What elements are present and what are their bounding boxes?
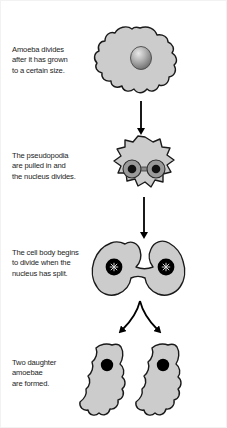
nucleus-star-pattern-left bbox=[110, 263, 118, 271]
arrow-step3-to-step4 bbox=[123, 301, 157, 329]
step-3-caption: The cell body begins to divide when the … bbox=[12, 248, 79, 279]
amoeba-two-daughter-cells bbox=[80, 344, 181, 415]
daughter-cell-left bbox=[80, 344, 125, 415]
nucleus-shaded-sphere bbox=[131, 47, 152, 70]
step-4-caption: Two daughter amoebae are formed. bbox=[12, 358, 56, 389]
nucleus-daughter-right bbox=[157, 359, 169, 371]
amoeba-division-diagram: Amoeba divides after it has grown to a c… bbox=[0, 0, 227, 428]
amoeba-single-cell bbox=[95, 27, 177, 93]
step-2-caption: The pseudopodia are pulled in and the nu… bbox=[12, 151, 76, 182]
amoeba-dumbbell-dividing bbox=[92, 241, 184, 295]
step-1-caption: Amoeba divides after it has grown to a c… bbox=[12, 45, 68, 76]
nucleus-left-dividing bbox=[106, 259, 123, 276]
nucleus-right-dividing bbox=[158, 259, 175, 276]
daughter-cell-right bbox=[136, 344, 181, 415]
amoeba-rounded-two-nuclei bbox=[114, 136, 174, 187]
nucleus-star-pattern-right bbox=[162, 263, 170, 271]
nucleus-daughter-left bbox=[101, 359, 113, 371]
nucleus-pair-left bbox=[123, 160, 141, 178]
nucleus-pair-right bbox=[147, 160, 165, 178]
